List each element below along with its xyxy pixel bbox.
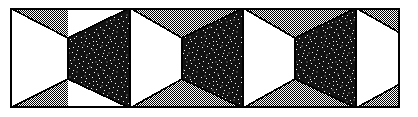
figure-container: Zigzag folded band optical illusion A ho… <box>0 0 418 117</box>
zigzag-band-illusion-figure <box>0 0 418 117</box>
